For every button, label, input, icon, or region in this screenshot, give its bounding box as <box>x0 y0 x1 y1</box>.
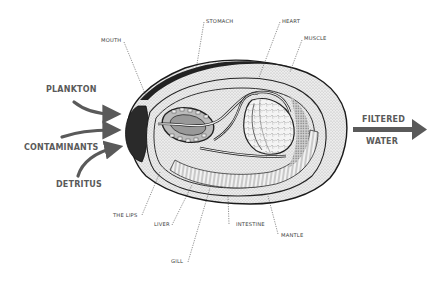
input-arrows <box>62 102 114 176</box>
label-plankton: PLANKTON <box>46 86 97 94</box>
label-muscle: MUSCLE <box>304 36 327 41</box>
label-mouth: MOUTH <box>101 38 121 43</box>
contaminants-arrow <box>62 130 112 137</box>
shell <box>126 60 347 204</box>
label-mantle: MANTLE <box>281 233 303 238</box>
label-contaminants: CONTAMINANTS <box>24 144 99 152</box>
label-water: WATER <box>366 138 398 146</box>
label-intestine: INTESTINE <box>236 222 265 227</box>
label-filtered: FILTERED <box>362 116 405 124</box>
label-detritus: DETRITUS <box>56 181 102 189</box>
label-lips: THE LIPS <box>113 213 137 218</box>
label-stomach: STOMACH <box>206 19 233 24</box>
plankton-arrow <box>74 102 112 114</box>
label-gill: GILL <box>171 259 183 264</box>
oyster-diagram: PLANKTON CONTAMINANTS DETRITUS FILTERED … <box>0 0 447 282</box>
label-liver: LIVER <box>154 222 170 227</box>
detritus-arrow <box>78 148 114 176</box>
label-heart: HEART <box>282 19 300 24</box>
